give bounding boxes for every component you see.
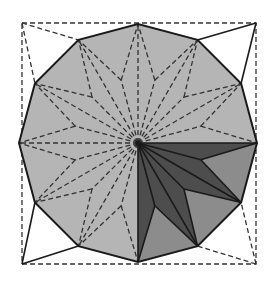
corner-line-top-right (241, 23, 256, 84)
corner-line-bottom-right (198, 246, 257, 264)
corner-line-bottom-right (241, 203, 256, 265)
corner-line-top-left (22, 23, 79, 40)
center-point (136, 141, 141, 146)
dodecagon-dissection-diagram (0, 0, 280, 289)
corner-line-top-left (22, 23, 35, 84)
corner-line-bottom-left (22, 246, 79, 264)
corner-line-bottom-left (22, 203, 35, 265)
corner-line-top-right (198, 23, 257, 40)
